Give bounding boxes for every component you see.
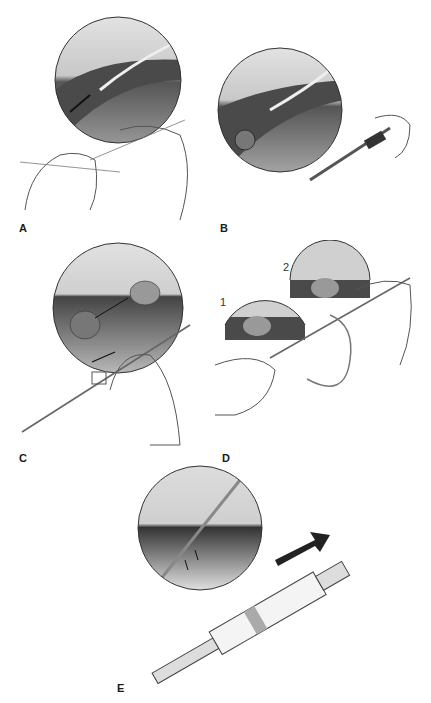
panel-c: C bbox=[0, 240, 215, 470]
panel-label-e: E bbox=[117, 682, 124, 694]
inset-label-1: 1 bbox=[220, 296, 226, 308]
panel-c-illustration bbox=[0, 240, 215, 470]
panel-b: B bbox=[215, 0, 431, 240]
panel-label-c: C bbox=[19, 452, 27, 464]
panel-e-illustration bbox=[100, 460, 431, 703]
panel-d: 1 2 D bbox=[215, 240, 431, 470]
large-arrow-icon bbox=[275, 532, 330, 566]
panel-b-illustration bbox=[215, 0, 431, 240]
panel-e: E bbox=[100, 460, 431, 703]
panel-label-a: A bbox=[19, 222, 27, 234]
inset-2 bbox=[290, 240, 370, 298]
panel-a: A bbox=[0, 0, 215, 240]
inset-label-2: 2 bbox=[283, 261, 289, 273]
panel-d-illustration bbox=[215, 240, 431, 470]
panel-label-b: B bbox=[220, 222, 228, 234]
panel-a-illustration bbox=[0, 0, 215, 240]
